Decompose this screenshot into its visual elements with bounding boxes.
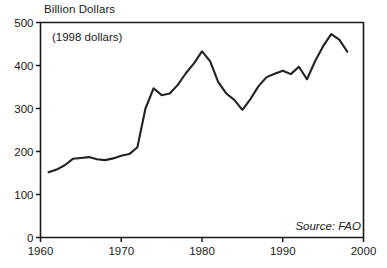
x-tick-label: 1960 bbox=[28, 245, 54, 257]
chart-figure: Billion Dollars (1998 dollars) Source: F… bbox=[0, 0, 387, 268]
y-tick-label: 300 bbox=[14, 103, 33, 115]
y-tick-label: 100 bbox=[14, 189, 33, 201]
line-series-agricultural-exports bbox=[49, 34, 348, 172]
inflation-note: (1998 dollars) bbox=[52, 31, 122, 43]
x-tick-label: 1990 bbox=[270, 245, 296, 257]
y-tick-label: 200 bbox=[14, 146, 33, 158]
plot-frame bbox=[41, 23, 364, 238]
x-tick-label: 1980 bbox=[189, 245, 215, 257]
y-tick-label: 500 bbox=[14, 17, 33, 29]
y-tick-label: 0 bbox=[27, 232, 33, 244]
data-series-group bbox=[49, 34, 348, 172]
x-tick-label: 2000 bbox=[351, 245, 377, 257]
x-tick-label: 1970 bbox=[108, 245, 134, 257]
source-note: Source: FAO bbox=[295, 220, 361, 232]
y-tick-label: 400 bbox=[14, 60, 33, 72]
